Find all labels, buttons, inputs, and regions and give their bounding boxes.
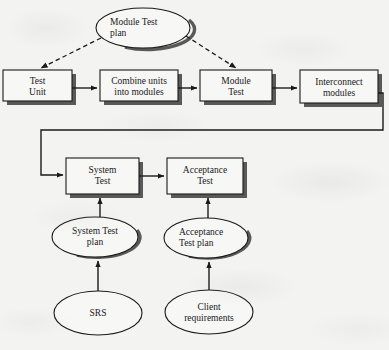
ellipse-client-requirements	[165, 290, 253, 334]
box-module-test	[200, 70, 272, 101]
diagram-vector-layer	[0, 0, 389, 350]
box-combine-units	[100, 70, 178, 101]
ellipse-system-test-plan	[52, 217, 138, 257]
box-system-test	[66, 158, 139, 194]
ellipse-acceptance-test-plan	[164, 218, 248, 258]
ellipse-module-test-plan	[96, 8, 190, 48]
connector-plan-to-module-test	[186, 36, 236, 68]
ellipse-srs	[54, 291, 142, 335]
box-interconnect	[300, 70, 378, 103]
box-test-unit	[3, 70, 72, 101]
box-acceptance-test	[167, 158, 243, 194]
connector-plan-to-test-unit	[41, 38, 101, 68]
diagram-canvas: Test Unit Combine units into modules Mod…	[0, 0, 389, 350]
